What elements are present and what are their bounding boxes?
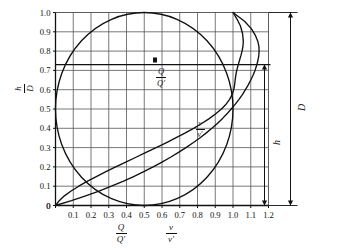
hydraulics-partial-flow-chart: 00.10.20.30.40.50.60.70.80.91.01.11.2 00…	[0, 0, 340, 252]
x-tick-label: 0.6	[157, 210, 168, 220]
curve-label-discharge-denominator: Q'	[157, 79, 165, 88]
x-tick-label: 0.4	[121, 210, 132, 220]
curve-label-discharge: Q Q'	[150, 67, 172, 87]
x-axis-label-discharge-denominator: Q'	[117, 235, 125, 244]
x-tick-label: 1.0	[228, 210, 239, 220]
y-tick-label: 0.1	[40, 181, 51, 191]
chart-background	[0, 0, 340, 252]
x-tick-label: 0.9	[210, 210, 221, 220]
curve-label-velocity-numerator: v	[198, 120, 201, 128]
x-axis-label-discharge: Q Q'	[108, 223, 134, 244]
x-tick-label: 0.1	[68, 210, 79, 220]
x-axis-label-velocity-numerator: v	[169, 223, 173, 232]
chart-canvas: 00.10.20.30.40.50.60.70.80.91.01.11.2 00…	[0, 0, 340, 252]
y-tick-label: 0.9	[40, 27, 51, 37]
y-axis-label-denominator: D	[26, 85, 35, 92]
y-tick-label: 0.6	[40, 85, 51, 95]
y-tick-label: 0.7	[40, 65, 51, 75]
y-tick-label: 1.0	[40, 8, 51, 18]
dimension-label-d: D	[295, 100, 309, 114]
x-tick-label: 0.8	[192, 210, 203, 220]
dimension-label-h: h	[269, 135, 283, 149]
y-tick-label: 0.4	[40, 123, 51, 133]
y-tick-label: 0.3	[40, 143, 51, 153]
curve-label-discharge-numerator: Q	[158, 67, 164, 76]
y-tick-label: 0.5	[40, 104, 51, 114]
x-axis-label-velocity-denominator: v'	[168, 235, 174, 244]
dimension-label-h-text: h	[271, 140, 282, 145]
x-tick-label: 0.7	[174, 210, 185, 220]
x-tick-label: 1.1	[245, 210, 256, 220]
dimension-label-d-text: D	[296, 103, 307, 110]
x-tick-label: 0.5	[139, 210, 150, 220]
reference-line-marker	[153, 58, 157, 63]
y-axis-label: h D	[11, 66, 37, 110]
y-axis-label-numerator: h	[14, 86, 23, 91]
y-tick-label: 0.2	[40, 162, 51, 172]
x-tick-label: 0.2	[86, 210, 97, 220]
y-tick-label: 0	[46, 201, 50, 211]
curve-label-velocity: v v'	[190, 120, 210, 138]
x-axis-label-discharge-numerator: Q	[118, 223, 125, 232]
x-tick-label: 1.2	[263, 210, 274, 220]
curve-label-velocity-denominator: v'	[198, 131, 203, 139]
y-tick-label: 0.8	[40, 46, 51, 56]
x-tick-label: 0.3	[103, 210, 114, 220]
x-axis-label-velocity: v v'	[158, 223, 184, 244]
